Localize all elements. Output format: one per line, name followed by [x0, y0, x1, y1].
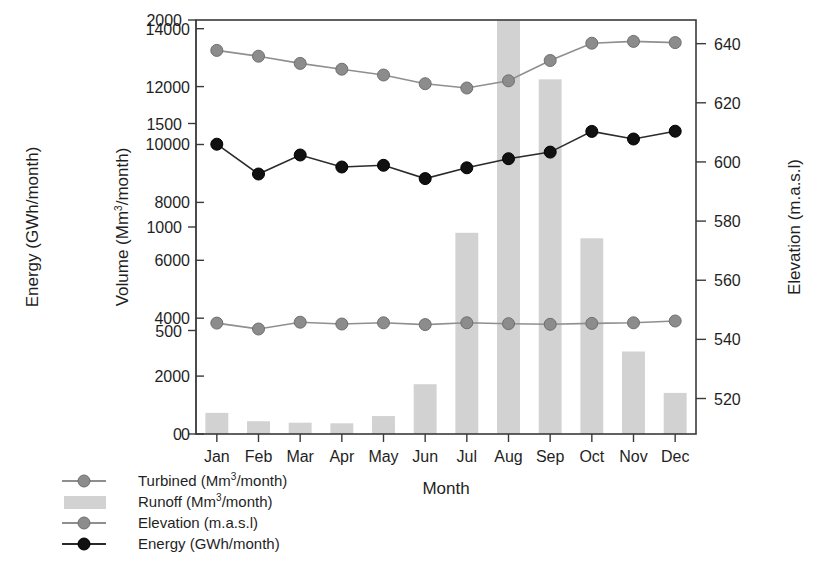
data-point-marker: [669, 37, 681, 49]
data-point-marker: [461, 82, 473, 94]
month-axis-ticks: [217, 434, 675, 442]
elevation-tick-label: 520: [714, 391, 741, 408]
legend-marker-icon: [78, 475, 90, 487]
data-point-marker: [503, 318, 515, 330]
month-tick-label: May: [368, 448, 398, 465]
runoff-bar: [414, 384, 437, 434]
data-point-marker: [586, 125, 598, 137]
volume-tick-label: 10000: [146, 136, 191, 153]
data-point-marker: [378, 159, 390, 171]
data-point-marker: [628, 133, 640, 145]
data-point-marker: [294, 316, 306, 328]
month-tick-label: Oct: [579, 448, 604, 465]
volume-axis-ticks: [196, 29, 204, 434]
elevation-axis-tick-labels: 520540560580600620640: [714, 36, 741, 408]
elevation-tick-label: 600: [714, 154, 741, 171]
volume-axis-title-base: Volume (Mm: [113, 211, 132, 306]
data-point-marker: [419, 78, 431, 90]
data-point-marker: [211, 44, 223, 56]
energy-line: [217, 131, 675, 178]
data-point-marker: [503, 153, 515, 165]
data-point-marker: [336, 63, 348, 75]
data-point-marker: [586, 317, 598, 329]
legend-item[interactable]: Energy (GWh/month): [62, 535, 280, 552]
runoff-bar: [455, 233, 478, 434]
volume-tick-label: 0: [181, 426, 190, 443]
data-point-marker: [419, 319, 431, 331]
legend-label-base: Energy (GWh/month): [138, 535, 280, 552]
data-point-marker: [669, 315, 681, 327]
data-point-marker: [336, 161, 348, 173]
legend: Turbined (Mm3/month)Runoff (Mm3/month)El…: [62, 471, 287, 552]
legend-label-tail: /month): [222, 493, 273, 510]
volume-tick-label: 2000: [154, 368, 190, 385]
volume-tick-label: 12000: [146, 79, 191, 96]
elevation-line: [217, 321, 675, 329]
figure-panel: 0500100015002000 Energy (GWh/month) 0200…: [0, 0, 835, 588]
runoff-bar-group: [205, 20, 686, 434]
legend-label-base: Runoff (Mm: [138, 493, 216, 510]
month-tick-label: Jun: [412, 448, 438, 465]
volume-axis-title: Volume (Mm3/month): [113, 148, 132, 307]
month-tick-label: Nov: [619, 448, 647, 465]
data-point-marker: [628, 35, 640, 47]
month-axis-title: Month: [422, 479, 469, 498]
data-point-marker: [544, 55, 556, 67]
data-point-marker: [461, 162, 473, 174]
legend-label: Elevation (m.a.s.l): [138, 514, 258, 531]
elevation-tick-label: 580: [714, 213, 741, 230]
legend-item[interactable]: Runoff (Mm3/month): [64, 492, 273, 510]
data-point-marker: [378, 317, 390, 329]
data-point-marker: [628, 317, 640, 329]
month-tick-label: Mar: [286, 448, 314, 465]
volume-tick-label: 6000: [154, 252, 190, 269]
legend-label: Runoff (Mm3/month): [138, 492, 273, 510]
data-point-marker: [419, 173, 431, 185]
data-point-marker: [253, 168, 265, 180]
legend-label-tail: /month): [236, 472, 287, 489]
legend-marker-icon: [78, 538, 90, 550]
runoff-bar: [247, 421, 270, 434]
month-tick-label: Apr: [329, 448, 355, 465]
legend-item[interactable]: Turbined (Mm3/month): [62, 471, 287, 489]
runoff-bar: [539, 79, 562, 434]
data-point-marker: [378, 69, 390, 81]
legend-swatch-icon: [64, 496, 106, 509]
data-point-marker: [211, 138, 223, 150]
data-point-marker: [544, 146, 556, 158]
legend-label-base: Turbined (Mm: [138, 472, 231, 489]
volume-axis-title-tail: /month): [113, 148, 132, 206]
data-point-marker: [544, 318, 556, 330]
elevation-tick-label: 640: [714, 36, 741, 53]
legend-label: Energy (GWh/month): [138, 535, 280, 552]
month-tick-label: Jul: [457, 448, 477, 465]
plot-frame: [196, 20, 696, 434]
data-point-marker: [253, 323, 265, 335]
elevation-tick-label: 540: [714, 331, 741, 348]
plot-area: [196, 20, 696, 434]
runoff-bar: [664, 393, 687, 434]
month-tick-label: Feb: [245, 448, 273, 465]
legend-item[interactable]: Elevation (m.a.s.l): [62, 514, 258, 531]
legend-marker-icon: [78, 517, 90, 529]
data-point-marker: [294, 57, 306, 69]
turbined-line: [217, 41, 675, 88]
legend-label-base: Elevation (m.a.s.l): [138, 514, 258, 531]
data-point-marker: [294, 149, 306, 161]
data-point-marker: [211, 317, 223, 329]
runoff-bar: [622, 351, 645, 434]
data-point-marker: [336, 318, 348, 330]
elevation-tick-label: 620: [714, 95, 741, 112]
data-point-marker: [669, 125, 681, 137]
elevation-axis: 520540560580600620640 Elevation (m.a.s.l…: [696, 36, 804, 408]
energy-tick-label: 1500: [146, 116, 182, 133]
volume-tick-label: 14000: [146, 21, 191, 38]
runoff-bar: [289, 423, 312, 434]
volume-tick-label: 8000: [154, 194, 190, 211]
energy-axis-title: Energy (GWh/month): [23, 147, 42, 308]
month-axis-tick-labels: JanFebMarAprMayJunJulAugSepOctNovDec: [204, 448, 689, 465]
data-point-marker: [586, 37, 598, 49]
runoff-bar: [205, 413, 228, 434]
volume-tick-label: 4000: [154, 310, 190, 327]
data-point-marker: [253, 50, 265, 62]
